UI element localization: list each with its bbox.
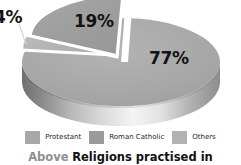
legend-item-roman-catholic[interactable]: Roman Catholic — [89, 131, 164, 144]
legend-label-protestant: Protestant — [45, 134, 81, 141]
pie-chart-figure: 77% 19% 4% Protestant Roman Catholic Oth… — [0, 0, 241, 165]
legend-label-roman-catholic: Roman Catholic — [109, 134, 164, 141]
slice-label-roman-catholic: 19% — [74, 11, 114, 31]
legend-item-others[interactable]: Others — [172, 131, 216, 144]
figure-caption: Above Religions practised in — [0, 150, 241, 164]
legend-label-others: Others — [192, 134, 216, 141]
legend-swatch-roman-catholic — [89, 131, 104, 144]
legend-swatch-protestant — [25, 131, 40, 144]
slice-label-others: 4% — [0, 7, 22, 27]
chart-legend: Protestant Roman Catholic Others — [0, 129, 241, 146]
legend-swatch-others — [172, 131, 187, 144]
slice-label-protestant: 77% — [149, 48, 189, 68]
legend-item-protestant[interactable]: Protestant — [25, 131, 81, 144]
caption-text: Religions practised in — [72, 150, 213, 164]
pie-chart-graphic — [0, 0, 241, 128]
caption-lead: Above — [28, 150, 68, 164]
